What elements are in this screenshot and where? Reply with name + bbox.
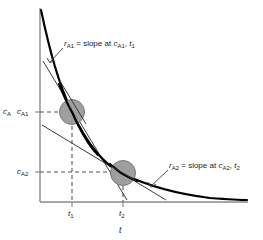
x-axis-label: t [119, 226, 121, 235]
y-tick-label-ca2-subscript: A2 [21, 171, 28, 177]
annotation-2-conc-sub: A2 [222, 165, 229, 171]
y-tick-label-ca1-subscript: A1 [21, 111, 28, 117]
tangent-line-2 [42, 125, 166, 200]
annotation-2-rate-sub: A2 [172, 165, 179, 171]
annotation-2-time-sub: 2 [236, 165, 239, 171]
y-axis-label: cA [3, 108, 11, 116]
plot-canvas [0, 0, 263, 240]
annotation-2-equals: = slope at [179, 161, 218, 170]
x-tick-label-t1: t1 [68, 210, 74, 218]
leader-line-annotation-2 [151, 170, 168, 186]
annotation-tangent-2: rA2 = slope at cA2, t2 [169, 162, 240, 170]
annotation-1-rate-sub: A1 [67, 43, 74, 49]
x-tick-label-t1-subscript: 1 [70, 213, 73, 219]
x-tick-label-t2-subscript: 2 [121, 213, 124, 219]
annotation-1-equals: = slope at [74, 39, 113, 48]
y-tick-label-ca2: cA2 [17, 168, 28, 176]
x-tick-label-t2: t2 [119, 210, 125, 218]
annotation-tangent-1: rA1 = slope at cA1, t1 [64, 40, 135, 48]
concentration-vs-time-figure: rA1 = slope at cA1, t1 rA2 = slope at cA… [0, 0, 263, 240]
y-axis-label-subscript: A [7, 111, 11, 117]
annotation-1-conc-sub: A1 [117, 43, 124, 49]
y-tick-label-ca1: cA1 [17, 108, 28, 116]
annotation-1-time-sub: 1 [131, 43, 134, 49]
